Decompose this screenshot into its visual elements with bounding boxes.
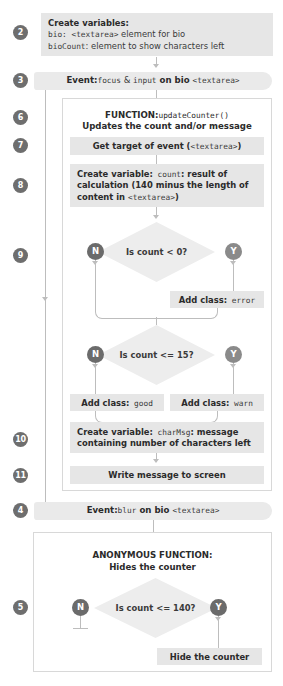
decision2-yes-arrow bbox=[230, 364, 236, 368]
write-message-text: Write message to screen bbox=[108, 470, 225, 480]
step-badge-5: 5 bbox=[13, 600, 28, 615]
biocount-var-name: bioCount bbox=[48, 42, 86, 51]
count-var-name: count bbox=[153, 170, 181, 179]
create-charmsg-line1: Create variable: charMsg: message bbox=[77, 427, 257, 438]
charmsg-var-name: charMsg bbox=[153, 428, 191, 437]
create-variables-box: Create variables: bio: <textarea> elemen… bbox=[41, 13, 273, 56]
create-charmsg-rest: : message bbox=[190, 427, 238, 437]
decision-count-lte-140-label: Is count <= 140? bbox=[94, 603, 217, 613]
add-class-error-label: Add class: bbox=[179, 295, 227, 305]
create-count-label: Create variable: bbox=[77, 169, 153, 179]
add-class-good-value: good bbox=[129, 399, 152, 408]
connector-10-arrow bbox=[153, 459, 159, 463]
step-badge-7: 7 bbox=[13, 138, 28, 153]
hide-counter-text: Hide the counter bbox=[170, 652, 250, 662]
get-target-text: Get target of event ( bbox=[93, 141, 191, 151]
event-label-3: Event: bbox=[66, 75, 97, 85]
event-blur-banner: Event:blur on bio <textarea> bbox=[34, 502, 272, 520]
decision2-no-arrow bbox=[92, 364, 98, 368]
step-badge-3: 3 bbox=[13, 73, 28, 88]
function-name: updateCounter() bbox=[158, 111, 228, 120]
add-class-good-box: Add class: good bbox=[70, 394, 164, 411]
create-charmsg-box: Create variable: charMsg: message contai… bbox=[70, 422, 264, 453]
decision1-yes-arrow bbox=[230, 261, 236, 265]
decision1-no-line bbox=[95, 260, 96, 306]
create-count-line1: Create variable: count: result of bbox=[77, 169, 257, 180]
biocount-var-desc: : element to show characters left bbox=[86, 41, 225, 51]
add-class-warn-value: warn bbox=[229, 399, 252, 408]
step-badge-6: 6 bbox=[13, 110, 28, 125]
count-textarea-token: <textarea> bbox=[128, 193, 175, 202]
decision-count-lt-0-label: Is count < 0? bbox=[98, 247, 215, 257]
connector-8-arrow bbox=[153, 215, 159, 219]
event-focus-input-banner: Event:focus & input on bio <textarea> bbox=[34, 72, 272, 90]
step-badge-2: 2 bbox=[13, 25, 28, 40]
decision3-no-terminator bbox=[73, 628, 88, 629]
write-message-box: Write message to screen bbox=[70, 466, 264, 484]
add-class-good-label: Add class: bbox=[81, 398, 129, 408]
event-amp: & bbox=[121, 75, 133, 85]
merge-elbow-right bbox=[156, 308, 218, 319]
get-target-textarea-token: <textarea> bbox=[190, 142, 237, 151]
function-keyword: FUNCTION: bbox=[105, 110, 158, 120]
create-variables-biocount-line: bioCount: element to show characters lef… bbox=[48, 41, 266, 52]
decision1-no-bubble: N bbox=[87, 243, 104, 260]
step-badge-9: 9 bbox=[13, 248, 28, 263]
step-badge-10: 10 bbox=[13, 432, 28, 447]
decision1-no-arrow bbox=[92, 261, 98, 265]
get-target-close-paren: ) bbox=[237, 141, 241, 151]
connector-4-to-anon bbox=[153, 520, 154, 532]
create-count-rest: : result of bbox=[181, 169, 227, 179]
add-class-error-value: error bbox=[227, 296, 255, 305]
create-count-line3: content in <textarea>) bbox=[77, 192, 257, 203]
event-input-token: input bbox=[133, 76, 156, 85]
anon-function-title: ANONYMOUS FUNCTION: bbox=[33, 550, 272, 562]
create-variables-title: Create variables: bbox=[48, 18, 266, 29]
step-badge-11: 11 bbox=[13, 468, 28, 483]
add-class-warn-box: Add class: warn bbox=[170, 394, 264, 411]
connector-7-to-8 bbox=[156, 155, 157, 164]
decision2-yes-bubble: Y bbox=[225, 346, 242, 363]
decision-count-lte-15-label: Is count <= 15? bbox=[98, 350, 215, 360]
create-count-line3c: ) bbox=[175, 192, 179, 202]
create-count-box: Create variable: count: result of calcul… bbox=[70, 164, 264, 207]
event-on-bio-4: on bio bbox=[136, 505, 172, 515]
connector-3-to-function bbox=[156, 90, 157, 98]
event-blur-token: blur bbox=[118, 506, 137, 515]
add-class-warn-label: Add class: bbox=[181, 398, 229, 408]
flowchart-canvas: 2 Create variables: bio: <textarea> elem… bbox=[0, 0, 283, 686]
rail-event3-to-event4-upper bbox=[45, 90, 46, 300]
function-subtitle: Updates the count and/or message bbox=[62, 121, 272, 133]
create-charmsg-line2: containing number of characters left bbox=[77, 438, 257, 449]
function-title-line1: FUNCTION:updateCounter() bbox=[62, 110, 272, 122]
event-textarea-token-3: <textarea> bbox=[193, 76, 240, 85]
create-charmsg-label: Create variable: bbox=[77, 427, 153, 437]
decision3-no-bubble: N bbox=[72, 599, 89, 616]
event-label-4: Event: bbox=[87, 505, 118, 515]
merge-elbow-left bbox=[95, 306, 157, 319]
rail-event3-to-event4-lower bbox=[45, 300, 46, 505]
merge-to-decision2 bbox=[156, 317, 157, 325]
create-count-line3a: content in bbox=[77, 192, 128, 202]
create-count-line2: calculation (140 minus the length of bbox=[77, 180, 257, 191]
bio-var-desc: element for bio bbox=[118, 29, 185, 39]
decision3-yes-bubble: Y bbox=[210, 599, 227, 616]
event-on-bio-3: on bio bbox=[157, 75, 193, 85]
step-badge-4: 4 bbox=[13, 503, 28, 518]
anon-function-subtitle: Hides the counter bbox=[33, 562, 272, 574]
bio-var-name: bio: bbox=[48, 30, 71, 39]
textarea-token: <textarea> bbox=[71, 30, 118, 39]
add-class-error-box: Add class: error bbox=[170, 291, 264, 308]
decision3-yes-arrow bbox=[215, 617, 221, 621]
connector-2-to-3-arrow bbox=[153, 64, 159, 68]
event-textarea-token-4: <textarea> bbox=[172, 506, 219, 515]
decision2-no-bubble: N bbox=[87, 346, 104, 363]
hide-counter-box: Hide the counter bbox=[157, 648, 262, 665]
decision1-yes-bubble: Y bbox=[225, 243, 242, 260]
decision3-no-stub bbox=[80, 616, 81, 628]
step-badge-8: 8 bbox=[13, 178, 28, 193]
create-variables-bio-line: bio: <textarea> element for bio bbox=[48, 29, 266, 40]
get-target-box: Get target of event (<textarea>) bbox=[70, 137, 264, 155]
event-focus-token: focus bbox=[97, 76, 120, 85]
